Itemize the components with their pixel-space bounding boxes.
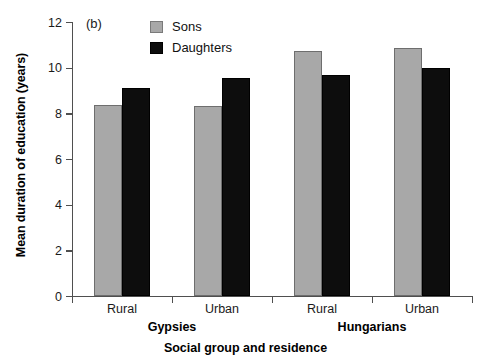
bar-daughters-1 <box>222 78 250 296</box>
bar-daughters-2 <box>322 75 350 296</box>
x-tick-2 <box>272 296 273 303</box>
x-category-label-1: Urban <box>205 302 239 316</box>
x-category-label-0: Rural <box>107 302 137 316</box>
y-tick-6: 6 <box>66 159 72 160</box>
bar-sons-1 <box>194 106 222 296</box>
y-tick-label-8: 8 <box>55 107 62 121</box>
x-tick-0 <box>72 296 73 303</box>
x-tick-4 <box>472 296 473 303</box>
bar-sons-2 <box>294 51 322 296</box>
chart-figure: Mean duration of education (years) (b) S… <box>0 0 491 360</box>
x-axis-title: Social group and residence <box>0 341 491 355</box>
y-tick-10: 10 <box>66 68 72 69</box>
y-tick-label-0: 0 <box>55 290 62 304</box>
y-axis-line <box>72 22 73 296</box>
x-category-label-3: Urban <box>405 302 439 316</box>
bar-sons-0 <box>94 105 122 296</box>
y-axis-title: Mean duration of education (years) <box>8 0 34 310</box>
x-group-label-gypsies: Gypsies <box>148 320 197 334</box>
x-category-label-2: Rural <box>307 302 337 316</box>
y-tick-8: 8 <box>66 113 72 114</box>
y-tick-4: 4 <box>66 205 72 206</box>
y-tick-label-6: 6 <box>55 153 62 167</box>
plot-area: 024681012 <box>72 22 472 296</box>
y-tick-12: 12 <box>66 22 72 23</box>
bar-daughters-3 <box>422 68 450 296</box>
y-tick-label-4: 4 <box>55 198 62 212</box>
x-tick-1 <box>172 296 173 303</box>
y-tick-2: 2 <box>66 250 72 251</box>
bar-sons-3 <box>394 48 422 296</box>
y-tick-label-2: 2 <box>55 244 62 258</box>
y-tick-label-12: 12 <box>48 16 62 30</box>
x-group-label-hungarians: Hungarians <box>338 320 407 334</box>
y-tick-label-10: 10 <box>48 61 62 75</box>
bar-daughters-0 <box>122 88 150 296</box>
x-tick-3 <box>372 296 373 303</box>
